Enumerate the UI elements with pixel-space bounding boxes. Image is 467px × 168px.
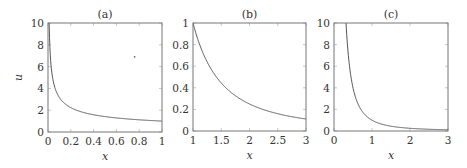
y-tick-label: 6 xyxy=(37,61,44,73)
y-tick-label: 8 xyxy=(37,39,44,51)
y-tick-label: 0.8 xyxy=(172,39,189,51)
x-tick-label: 1.5 xyxy=(213,134,230,146)
x-tick-label: 0 xyxy=(45,135,52,147)
curve-line xyxy=(193,23,306,119)
x-tick-label: 3 xyxy=(445,134,452,146)
y-tick-label: 1 xyxy=(182,17,189,29)
x-tick-label: 0.4 xyxy=(85,135,102,147)
y-tick-label: 0.4 xyxy=(172,82,189,94)
subplot-title: (c) xyxy=(384,8,399,21)
y-tick-label: 8 xyxy=(323,39,330,51)
x-axis-label: x xyxy=(102,150,109,163)
y-tick-label: 0 xyxy=(37,126,44,138)
y-tick-label: 0.6 xyxy=(172,60,189,72)
subplot-a: 00.20.40.60.810246810(a)xu xyxy=(12,8,165,163)
figure: 00.20.40.60.810246810(a)xu11.522.5300.20… xyxy=(0,0,467,168)
x-tick-label: 0.2 xyxy=(62,135,79,147)
x-tick-label: 1 xyxy=(159,135,166,147)
y-axis-label: u xyxy=(12,74,25,81)
x-tick-label: 0.6 xyxy=(108,135,125,147)
marker-dot xyxy=(134,56,136,58)
x-tick-label: 2 xyxy=(246,134,253,146)
x-tick-label: 0 xyxy=(331,134,338,146)
y-tick-label: 0 xyxy=(182,125,189,137)
subplot-b: 11.522.5300.20.40.60.81(b)x xyxy=(172,8,309,162)
curve-line xyxy=(49,23,162,121)
x-tick-label: 2.5 xyxy=(269,134,286,146)
y-tick-label: 0 xyxy=(323,125,330,137)
y-tick-label: 2 xyxy=(323,103,330,115)
y-tick-label: 0.2 xyxy=(172,103,189,115)
axes-frame xyxy=(48,23,162,132)
subplot-c: 01230246810(c)x xyxy=(317,8,452,162)
x-tick-label: 2 xyxy=(407,134,414,146)
y-tick-label: 4 xyxy=(323,82,330,94)
axes-frame xyxy=(193,23,306,131)
x-tick-label: 3 xyxy=(303,134,310,146)
y-tick-label: 10 xyxy=(317,17,330,29)
x-tick-label: 1 xyxy=(190,134,197,146)
y-tick-label: 6 xyxy=(323,60,330,72)
subplot-title: (a) xyxy=(97,8,112,21)
y-tick-label: 4 xyxy=(37,82,44,94)
curve-line xyxy=(346,23,448,130)
x-axis-label: x xyxy=(388,149,395,162)
y-tick-label: 2 xyxy=(37,104,44,116)
x-tick-label: 0.8 xyxy=(131,135,148,147)
subplot-title: (b) xyxy=(242,8,258,21)
x-tick-label: 1 xyxy=(369,134,376,146)
y-tick-label: 10 xyxy=(31,17,44,29)
x-axis-label: x xyxy=(246,149,253,162)
